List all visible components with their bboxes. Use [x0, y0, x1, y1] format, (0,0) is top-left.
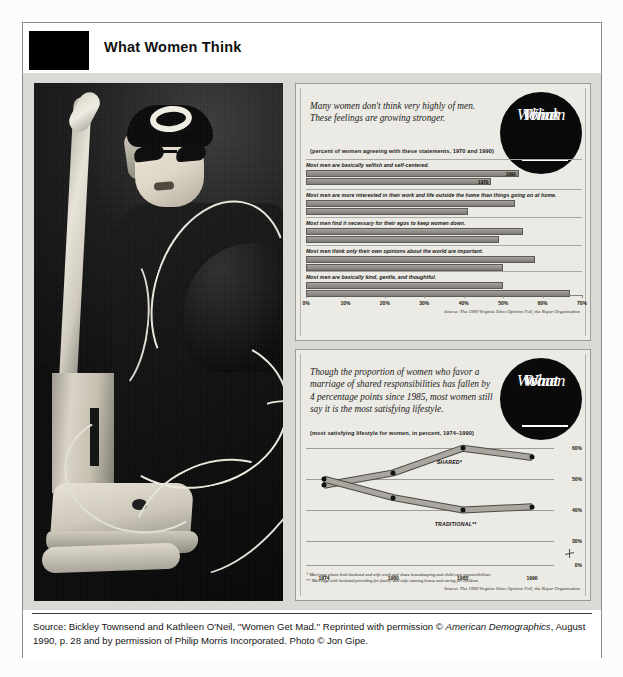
- axis-break-icon: [565, 549, 574, 558]
- think-headline: Many women don't think very highly of me…: [310, 100, 496, 125]
- want-source: Source: The 1990 Virginia Slims Opinion …: [444, 586, 580, 591]
- series-annotation-traditional: TRADITIONAL**: [435, 521, 477, 527]
- axis-tick-label: 20%: [380, 300, 390, 306]
- data-point: [391, 470, 396, 475]
- want-footnote-1: * Marriage where both husband and wife w…: [306, 572, 491, 577]
- data-point: [530, 504, 535, 509]
- bar-series-label: 1970: [478, 179, 488, 187]
- bar-statement-label: Most men are basically kind, gentle, and…: [306, 274, 436, 280]
- bar-group-divider: [306, 217, 582, 218]
- axis-tick-label: 70%: [577, 300, 587, 306]
- axis-tick-label: 0%: [302, 300, 309, 306]
- article-frame: What Women Think: [22, 22, 602, 658]
- bar-1990: [306, 228, 523, 235]
- bar-group-divider: [306, 271, 582, 272]
- page-title: What Women Think: [104, 39, 241, 55]
- bar-axis-line: [306, 295, 582, 296]
- line-series-svg: [306, 442, 554, 555]
- footer: Source: Bickley Townsend and Kathleen O'…: [23, 610, 601, 658]
- footer-divider: [32, 613, 592, 614]
- bar-1990: 1990: [306, 170, 519, 177]
- bar-statement-label: Most men find it necessary for their ego…: [306, 220, 466, 226]
- axis-tick: [385, 295, 386, 298]
- bar-1990: [306, 282, 503, 289]
- series-annotation-shared: SHARED*: [437, 459, 462, 465]
- article-body: Many women don't think very highly of me…: [23, 73, 601, 610]
- y-axis-label: 30%: [572, 537, 582, 543]
- think-source: Source: The 1990 Virginia Slims Opinion …: [444, 309, 580, 314]
- caption-part-2: , August: [551, 621, 586, 632]
- bar-series-label: 1990: [506, 171, 516, 179]
- header: What Women Think: [23, 23, 601, 73]
- bar-1990: [306, 256, 535, 263]
- axis-tick: [345, 295, 346, 298]
- panel-what-women-think: Many women don't think very highly of me…: [295, 83, 591, 341]
- want-footnote-2: ** Marriage with husband providing for f…: [306, 578, 478, 583]
- data-point: [530, 455, 535, 460]
- bar-1990: [306, 200, 515, 207]
- data-point: [460, 507, 465, 512]
- bar-statement-label: Most men are more interested in their wo…: [306, 192, 556, 198]
- want-subhead: (most satisfying lifestyle for women, in…: [310, 430, 474, 436]
- axis-tick: [503, 295, 504, 298]
- y-axis-label: 0%: [575, 562, 582, 568]
- y-axis-label: 50%: [572, 476, 582, 482]
- badge-underline: [522, 425, 568, 427]
- axis-tick-label: 40%: [459, 300, 469, 306]
- page-root: What Women Think: [0, 0, 623, 677]
- photograph: [34, 83, 283, 601]
- bar-1970: [306, 236, 499, 243]
- data-point: [322, 483, 327, 488]
- header-swatch: [29, 31, 89, 70]
- caption-line-2: 1990, p. 28 and by permission of Philip …: [33, 635, 368, 646]
- caption-publication: American Demographics: [446, 621, 551, 632]
- think-subhead: (percent of women agreeing with these st…: [310, 148, 494, 154]
- bar-chart: Most men are basically selfish and self-…: [306, 162, 582, 312]
- axis-tick-label: 10%: [340, 300, 350, 306]
- badge-what-women-want: What Women Want: [500, 358, 582, 440]
- y-axis-label: 40%: [572, 506, 582, 512]
- y-axis-label: 60%: [572, 445, 582, 451]
- bar-statement-label: Most men think only their own opinions a…: [306, 248, 483, 254]
- line-chart: 0%30%40%50%60%1974198019851990SHARED*TRA…: [306, 442, 582, 570]
- data-point: [322, 477, 327, 482]
- axis-tick-label: 60%: [538, 300, 548, 306]
- bar-1970: [306, 208, 468, 215]
- axis-tick: [543, 295, 544, 298]
- badge-line-3: Want: [500, 372, 582, 390]
- want-headline: Though the proportion of women who favor…: [310, 366, 496, 416]
- axis-tick: [306, 295, 307, 298]
- panel-what-women-want: Though the proportion of women who favor…: [295, 349, 591, 601]
- data-point: [460, 446, 465, 451]
- bar-statement-label: Most men are basically selfish and self-…: [306, 162, 429, 168]
- bar-group-divider: [306, 189, 582, 190]
- axis-tick: [464, 295, 465, 298]
- axis-tick-label: 30%: [419, 300, 429, 306]
- data-point: [391, 495, 396, 500]
- bar-group-divider: [306, 159, 582, 160]
- axis-tick-label: 50%: [498, 300, 508, 306]
- x-axis-label: 1990: [526, 575, 537, 581]
- bar-group-divider: [306, 245, 582, 246]
- axis-tick: [424, 295, 425, 298]
- badge-line-3: Think: [500, 106, 582, 124]
- bar-1970: [306, 264, 503, 271]
- bar-1970: 1970: [306, 178, 491, 185]
- source-caption: Source: Bickley Townsend and Kathleen O'…: [33, 620, 589, 648]
- axis-tick: [582, 295, 583, 298]
- caption-part-1: Source: Bickley Townsend and Kathleen O'…: [33, 621, 446, 632]
- axis-baseline: [306, 565, 554, 566]
